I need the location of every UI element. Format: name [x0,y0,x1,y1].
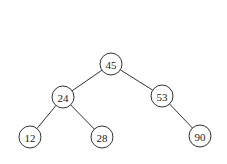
node-label: 53 [157,91,169,103]
tree-edge-24-28 [71,105,95,129]
tree-node-90: 90 [189,125,211,147]
tree-edge-45-24 [72,70,102,91]
tree-node-24: 24 [52,86,74,108]
tree-node-12: 12 [19,126,41,148]
node-label: 24 [58,92,70,104]
tree-nodes: 452453122890 [19,53,211,148]
node-label: 28 [97,132,109,144]
tree-node-53: 53 [151,85,173,107]
node-label: 12 [25,132,36,144]
tree-node-28: 28 [91,126,113,148]
tree-diagram: 452453122890 [0,0,227,164]
tree-edge-53-90 [170,104,193,128]
tree-node-45: 45 [100,53,122,75]
node-label: 90 [195,131,207,143]
node-label: 45 [106,59,118,71]
tree-edge-24-12 [37,105,56,128]
tree-edge-45-53 [120,70,152,90]
